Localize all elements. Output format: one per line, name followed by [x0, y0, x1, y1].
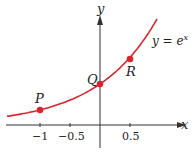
tick-label-05: 0.5 [122, 130, 140, 143]
y-axis-arrow-icon [97, 15, 103, 25]
r-label: R [126, 64, 136, 79]
point-p [37, 107, 44, 114]
curve-label-base: y = e [152, 34, 184, 48]
y-axis-label: y [97, 1, 104, 16]
plot-area [0, 0, 196, 157]
curve-label: y = ex [152, 33, 188, 48]
x-axis-label: x [181, 117, 188, 132]
tick-label-neg05: −0.5 [58, 130, 85, 143]
p-label: P [35, 91, 44, 106]
q-label: Q [87, 72, 98, 87]
exponential-graph: y x y = ex P Q R −1 −0.5 0.5 [0, 0, 196, 157]
curve-label-exp: x [184, 33, 189, 42]
tick-label-neg1: −1 [32, 130, 48, 143]
point-r [127, 56, 134, 63]
